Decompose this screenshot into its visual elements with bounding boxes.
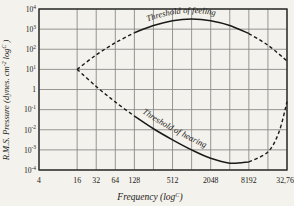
x-tick-label: 16 bbox=[73, 176, 81, 185]
x-tick-label: 8192 bbox=[241, 176, 257, 185]
x-tick-label: 4 bbox=[37, 176, 41, 185]
x-tick-label: 32 bbox=[92, 176, 100, 185]
chart-figure: 41632641285122048819232,768 104103102101… bbox=[0, 0, 294, 206]
svg-text:R.M.S. Pressure (dynes. cm-2 l: R.M.S. Pressure (dynes. cm-2 logC ) bbox=[1, 40, 11, 162]
svg-text:Frequency (logC): Frequency (logC) bbox=[116, 191, 182, 203]
x-tick-label: 32,768 bbox=[276, 176, 294, 185]
y-axis-title: R.M.S. Pressure (dynes. cm-2 logC ) bbox=[1, 40, 11, 162]
chart-svg: 41632641285122048819232,768 104103102101… bbox=[0, 0, 294, 206]
y-tick-label: 1 bbox=[32, 85, 36, 94]
x-axis-title: Frequency (logC) bbox=[116, 191, 182, 203]
x-tick-label: 64 bbox=[111, 176, 119, 185]
x-tick-label: 128 bbox=[129, 176, 141, 185]
x-tick-label: 512 bbox=[167, 176, 179, 185]
x-tick-label: 2048 bbox=[203, 176, 219, 185]
